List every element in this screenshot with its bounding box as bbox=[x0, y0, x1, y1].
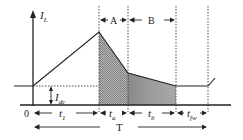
origin-label: 0 bbox=[24, 108, 29, 119]
interval-tfw-label: tfw bbox=[187, 107, 197, 122]
waveform-diagram: IL Idc 0 A B t1 ta tb tfw T bbox=[0, 0, 243, 140]
shaded-region-b bbox=[128, 73, 176, 105]
region-a-label: A bbox=[110, 15, 118, 26]
idc-arrow-up-icon bbox=[49, 86, 53, 91]
y-axis-arrow-icon bbox=[30, 10, 36, 18]
shaded-region-a bbox=[99, 32, 128, 105]
interval-ta-label: ta bbox=[109, 107, 116, 122]
period-label: T bbox=[116, 121, 123, 133]
waveform-svg: IL Idc 0 A B t1 ta tb tfw T bbox=[0, 0, 243, 140]
region-b-label: B bbox=[148, 15, 155, 26]
y-axis-label: IL bbox=[39, 9, 48, 24]
interval-t1-label: t1 bbox=[59, 107, 66, 122]
idc-arrow-down-icon bbox=[49, 100, 53, 105]
idc-label: Idc bbox=[54, 91, 66, 106]
interval-tb-label: tb bbox=[148, 107, 155, 122]
